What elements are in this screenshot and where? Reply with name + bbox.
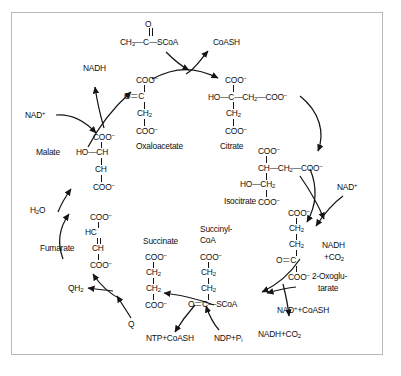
- arrow-oaa-to-citrate: [152, 70, 218, 80]
- succinate-line4: COO−: [145, 300, 167, 309]
- citrate-charge-2: −: [243, 126, 246, 132]
- oxoglutarate-line3: CH2: [289, 240, 304, 249]
- fumarate-line3: CH: [92, 244, 104, 252]
- acetylcoa-ch3-sub: 3: [132, 41, 135, 47]
- oxoglutarate-ch2-1: CH: [289, 223, 301, 233]
- nadplus-right-charge: +: [354, 182, 357, 188]
- acetylcoa-ch: CH: [120, 37, 132, 47]
- nadh-right-line2: +CO2: [324, 253, 344, 262]
- fumarate-charge-2: −: [108, 260, 111, 266]
- oxoglutarate-charge-1: −: [306, 208, 309, 214]
- oxaloacetate-ch2: CH: [137, 108, 149, 118]
- citrate-bond-3: [233, 119, 234, 126]
- oxaloacetate-c: C: [138, 91, 144, 101]
- malate-coo-2: COO: [93, 182, 111, 192]
- succinylcoa-name-line1: Succinyl-: [200, 225, 232, 233]
- oxoglutarate-o: O: [276, 255, 282, 265]
- citrate-coo-2: COO: [225, 126, 243, 136]
- succinylcoa-charge: −: [218, 252, 221, 258]
- oxoglutarate-line1: COO−: [288, 208, 310, 217]
- water-in-label: H2O: [30, 206, 45, 215]
- oxaloacetate-coo-1: COO: [136, 75, 154, 85]
- arrow-acetylcoa-in: [166, 52, 189, 70]
- nadh-co2-bottom-sub: 2: [298, 333, 301, 339]
- oxaloacetate-line3: CH2: [137, 109, 152, 118]
- acetylcoa-formula: CH3—C—SCoA: [120, 38, 178, 47]
- isocitrate-coo-1: COO: [258, 146, 276, 156]
- oxaloacetate-charge-2: −: [154, 126, 157, 132]
- nad-coash-tail: +CoASH: [297, 305, 329, 315]
- succinate-charge-2: −: [163, 300, 166, 306]
- q-label: Q: [128, 320, 134, 328]
- citrate-charge-tail: −: [284, 92, 287, 98]
- nadh-right-co2-sub: 2: [341, 256, 344, 262]
- succinylcoa-ch2-2: CH: [201, 283, 213, 293]
- isocitrate-name: Isocitrate: [224, 197, 256, 205]
- fumarate-line2: HC: [85, 228, 97, 236]
- isocitrate-charge-tail: −: [319, 163, 322, 169]
- water-o: O: [39, 205, 45, 215]
- citrate-bond-1: [233, 85, 234, 92]
- citrate-ho-c-ch: HO—C—CH: [208, 92, 254, 102]
- isocitrate-line4: COO−: [258, 197, 280, 206]
- oxaloacetate-line1: COO−: [136, 75, 158, 84]
- isocitrate-line1: COO−: [258, 146, 280, 155]
- citrate-charge-1: −: [243, 75, 246, 81]
- nadh-right-line1: NADH: [322, 241, 345, 249]
- nadh-co2-bottom-label: NADH+CO2: [258, 330, 301, 339]
- succinate-line2: CH2: [146, 268, 161, 277]
- oxoglutarate-charge-2: −: [306, 272, 309, 278]
- oxaloacetate-ch2-sub: 2: [149, 112, 152, 118]
- oxaloacetate-line2: O＝C: [124, 92, 144, 100]
- fumarate-bond-1: [98, 222, 99, 228]
- nadplus-right-label: NAD+: [337, 182, 357, 191]
- isocitrate-bond-1: [266, 156, 267, 163]
- oxoglutarate-coo-1: COO: [288, 208, 306, 218]
- arrow-nadplus-in-left: [56, 115, 96, 133]
- succinylcoa-name-line2: CoA: [200, 236, 216, 244]
- arrow-qh2-out: [88, 288, 113, 291]
- oxoglutarate-name-line1: 2-Oxoglu-: [312, 272, 347, 280]
- qh2-sub: 2: [80, 287, 83, 293]
- succinylcoa-line4: O＝C—SCoA: [188, 300, 237, 308]
- ndp-pi-label: NDP+Pi: [214, 334, 242, 343]
- arrow-q-in: [117, 296, 131, 318]
- succinylcoa-ch2-2-sub: 2: [213, 287, 216, 293]
- oxoglutarate-line4: O＝C: [276, 256, 296, 264]
- fumarate-charge-1: −: [108, 212, 111, 218]
- fumarate-coo-1: COO: [90, 212, 108, 222]
- malate-bond-3: [101, 175, 102, 182]
- isocitrate-line3: HO—CH2: [240, 180, 275, 189]
- fumarate-name: Fumarate: [40, 244, 74, 252]
- nad-coash-nad: NAD: [277, 305, 294, 315]
- oxoglutarate-coo-2: COO: [288, 272, 306, 282]
- qh2-label: QH2: [68, 284, 83, 293]
- nadplus-left-charge: +: [42, 110, 45, 116]
- citrate-coo-1: COO: [225, 75, 243, 85]
- oxoglutarate-line5: COO−: [288, 272, 310, 281]
- oxaloacetate-coo-2: COO: [136, 126, 154, 136]
- isocitrate-ho-ch: HO—CH: [240, 179, 272, 189]
- citrate-coo-tail: —COO: [257, 92, 284, 102]
- malate-line4: COO−: [93, 182, 115, 191]
- acetylcoa-double-bond-b: [152, 28, 153, 36]
- nadplus-right-text: NAD: [337, 182, 354, 192]
- fumarate-coo-2: COO: [90, 260, 108, 270]
- succinylcoa-line3: CH2: [201, 284, 216, 293]
- nadplus-left-text: NAD: [25, 110, 42, 120]
- arrow-citrate-to-isocitrate: [300, 96, 321, 151]
- succinate-ch2-1: CH: [146, 267, 158, 277]
- nad-coash-in-label: NAD++CoASH: [277, 305, 329, 314]
- arrow-ndp-pi-in: [206, 306, 219, 330]
- succinylcoa-line1: COO−: [200, 252, 222, 261]
- nadplus-left-label: NAD+: [25, 110, 45, 119]
- oxoglutarate-line2: CH2: [289, 224, 304, 233]
- succinate-ch2-2: CH: [146, 283, 158, 293]
- isocitrate-line2: CH—CH2—COO−: [258, 163, 323, 173]
- citrate-line1: COO−: [225, 75, 247, 84]
- oxaloacetate-bond-1: [144, 85, 145, 92]
- arrow-nad-coash-in: [267, 287, 296, 293]
- ndp-text: NDP+P: [214, 333, 241, 343]
- malate-line1: COO−: [93, 132, 115, 141]
- malate-name: Malate: [36, 148, 60, 156]
